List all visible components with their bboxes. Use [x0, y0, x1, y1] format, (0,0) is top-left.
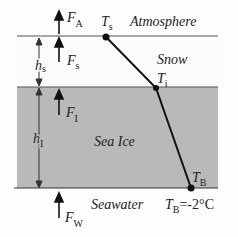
- flux-atmosphere-arrowhead: [55, 11, 63, 20]
- flux-water-arrowhead: [55, 193, 63, 202]
- bottom-temp-value-label: TB=-2°C: [165, 197, 214, 215]
- sea-ice-label: Sea Ice: [94, 134, 135, 149]
- seawater-label: Seawater: [91, 197, 144, 212]
- flux-atmosphere-label: FA: [66, 10, 84, 29]
- flux-water-label: FW: [64, 210, 84, 229]
- bottom-temp-point: [188, 185, 195, 192]
- surface-temp-point: [103, 34, 110, 41]
- snow-label: Snow: [157, 52, 188, 67]
- snow-layer: [17, 36, 218, 87]
- sea-ice-diagram: FA Ts Atmosphere Fs hs Snow Ti FI hI Sea…: [0, 0, 238, 237]
- surface-temp-label: Ts: [101, 14, 113, 32]
- atmosphere-label: Atmosphere: [129, 14, 196, 29]
